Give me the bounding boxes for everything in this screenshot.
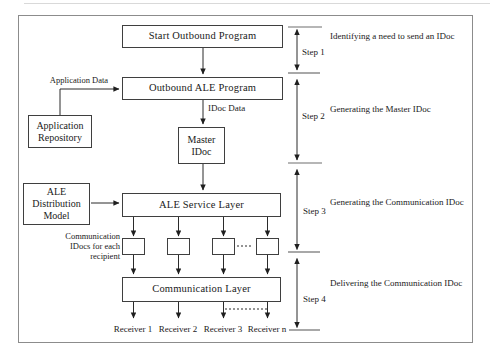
step-3-description: Generating the Communication IDoc [330,197,464,207]
ale-service-layer-box: ALE Service Layer [122,193,281,217]
application-data-label: Application Data [46,75,112,85]
receiver-1-label: Receiver 1 [114,324,153,334]
arrow-repository-to-outbound [60,89,119,115]
communication-layer-box: Communication Layer [122,277,281,302]
idoc-data-label: IDoc Data [208,103,245,113]
step-1-description: Identifying a need to send an IDoc [330,31,454,41]
step-scale [288,27,322,330]
step-4-description: Delivering the Communication IDoc [330,278,462,288]
communication-idoc-box-2 [167,238,190,255]
application-repository-box: Application Repository [28,115,92,148]
ale-distribution-model-box: ALE Distribution Model [23,183,90,225]
step-2-description: Generating the Master IDoc [330,104,431,114]
receiver-n-label: Receiver n [248,324,287,334]
outbound-ale-program-box: Outbound ALE Program [122,77,283,100]
ale-outbound-process-diagram: Start Outbound Program Outbound ALE Prog… [0,0,490,358]
receiver-2-label: Receiver 2 [159,324,198,334]
master-idoc-box: Master IDoc [178,127,225,164]
receiver-3-label: Receiver 3 [204,324,243,334]
communication-idoc-box-3 [212,238,235,255]
communication-idoc-box-4 [256,238,279,255]
communication-idocs-label: Communication IDocs for each recipient [54,231,120,261]
step-3-label: Step 3 [303,206,326,216]
step-2-label: Step 2 [302,111,325,121]
step-4-label: Step 4 [303,294,326,304]
connector-layer [0,0,490,358]
communication-idoc-box-1 [122,238,145,255]
step-1-label: Step 1 [302,47,325,57]
start-outbound-program-box: Start Outbound Program [122,25,283,48]
